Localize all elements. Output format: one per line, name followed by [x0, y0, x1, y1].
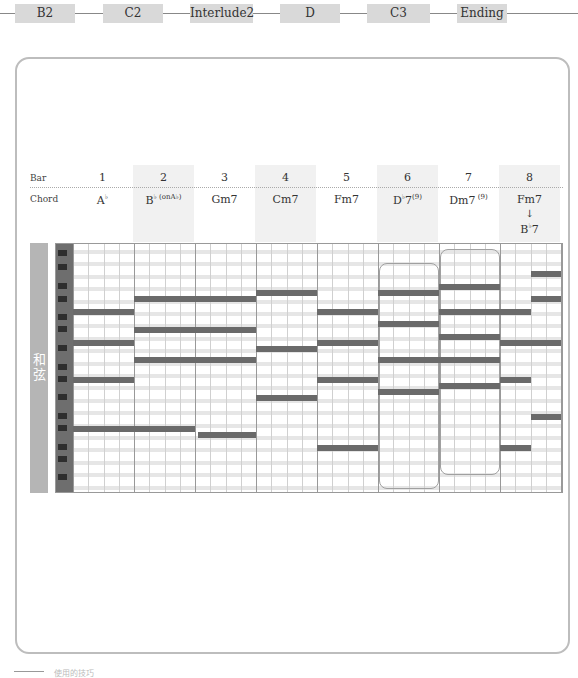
grid-line — [195, 244, 196, 492]
black-key — [58, 425, 67, 431]
grid-line — [210, 244, 211, 492]
chord-note — [256, 346, 317, 352]
chord-row-label: Chord — [30, 194, 58, 204]
bar-number: 8 — [499, 171, 560, 184]
footer-caption: 使用的技巧 — [14, 667, 134, 676]
grid-line — [165, 244, 166, 492]
chord-note — [500, 377, 531, 383]
black-key — [58, 264, 67, 270]
chord-note — [531, 271, 562, 277]
grid-line — [546, 244, 547, 492]
chord-note — [378, 321, 439, 327]
grid-line — [302, 244, 303, 492]
chord-note — [195, 296, 256, 302]
footer-text: 使用的技巧 — [54, 667, 94, 678]
chord-note — [439, 383, 500, 389]
bar-number: 2 — [133, 171, 194, 184]
chord-note — [198, 432, 256, 438]
grid-line — [256, 244, 257, 492]
chord-name: B♭ (onA♭) — [133, 193, 194, 207]
black-key — [58, 296, 67, 302]
chord-note — [378, 389, 439, 395]
black-key — [58, 474, 67, 480]
bar-number: 6 — [377, 171, 438, 184]
chord-note — [256, 395, 317, 401]
bar-number: 3 — [194, 171, 255, 184]
chord-note — [73, 426, 195, 432]
chord-name: Fm7 — [499, 193, 560, 206]
grid-line — [500, 244, 501, 492]
chord-extension: 7(9) — [405, 194, 422, 207]
black-key — [58, 456, 67, 462]
chord-root: Cm7 — [273, 193, 299, 206]
chord-root: D — [393, 194, 402, 207]
chord-accidental: ♭ — [105, 193, 108, 201]
grid-line — [317, 244, 318, 492]
black-key — [58, 314, 67, 320]
black-key — [58, 283, 67, 289]
black-key — [58, 376, 67, 382]
voicing-highlight-bracket — [379, 263, 439, 489]
chord-note — [500, 445, 531, 451]
chord-name: A♭ — [72, 193, 133, 207]
grid-line — [332, 244, 333, 492]
chord-note — [500, 309, 531, 315]
chord-extension: (onA♭) — [157, 193, 182, 201]
chord-note — [439, 284, 500, 290]
chord-note — [73, 309, 134, 315]
chord-note — [439, 309, 500, 315]
chord-note — [439, 357, 500, 363]
black-key — [58, 394, 67, 400]
chord-name: Gm7 — [194, 193, 255, 206]
chord-name: Cm7 — [255, 193, 316, 206]
footer-rule — [14, 671, 44, 672]
bar-number: 1 — [72, 171, 133, 184]
grid-line — [149, 244, 150, 492]
black-key — [58, 413, 67, 419]
black-key — [58, 326, 67, 332]
section-ending: Ending — [457, 4, 507, 23]
chord-note — [378, 290, 439, 296]
chord-note — [531, 414, 562, 420]
bar-number: 4 — [255, 171, 316, 184]
header-divider — [30, 187, 563, 188]
grid-line — [271, 244, 272, 492]
grid-line — [287, 244, 288, 492]
grid-line — [561, 244, 562, 492]
chord-note — [317, 309, 378, 315]
grid-line — [119, 244, 120, 492]
chord-note — [378, 357, 439, 363]
section-d: D — [280, 4, 340, 23]
grid-line — [241, 244, 242, 492]
black-key — [58, 345, 67, 351]
grid-line — [515, 244, 516, 492]
chord-root: Dm7 — [449, 194, 475, 207]
chord-note — [256, 290, 317, 296]
grid-line — [531, 244, 532, 492]
chord-track-label: 和弦 — [30, 243, 48, 493]
chord-note — [134, 357, 256, 363]
chord-name: Dm7 (9) — [438, 193, 499, 207]
chord-note — [73, 377, 134, 383]
chord-note — [73, 340, 134, 346]
chord-note — [134, 327, 256, 333]
piano-keyboard — [56, 244, 73, 492]
chord-note — [317, 340, 378, 346]
grid-line — [73, 244, 74, 492]
black-key — [58, 364, 67, 370]
bar-row-label: Bar — [30, 173, 46, 183]
chord-name: Fm7 — [316, 193, 377, 206]
piano-roll — [55, 243, 563, 493]
grid-line — [363, 244, 364, 492]
chord-note — [439, 334, 500, 340]
chord-note — [500, 340, 531, 346]
black-key — [58, 444, 67, 450]
grid-line — [104, 244, 105, 492]
chord-name: D♭7(9) — [377, 193, 438, 207]
chord-root: Gm7 — [211, 193, 237, 206]
grid-line — [180, 244, 181, 492]
bar-number: 7 — [438, 171, 499, 184]
chord-note — [531, 296, 562, 302]
grid-line — [348, 244, 349, 492]
black-key — [58, 250, 67, 256]
